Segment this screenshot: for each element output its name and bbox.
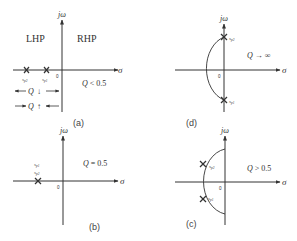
panel-c-label: (c)	[186, 219, 197, 229]
sp2-label: sp2	[209, 164, 215, 170]
jw-label: jω	[220, 126, 229, 135]
up-arrow-icon: ↑	[37, 102, 41, 111]
origin-label: 0	[56, 74, 59, 79]
q-increase-label: Q	[28, 102, 34, 111]
condition-label: Q < 0.5	[82, 79, 106, 88]
sigma-label: σ	[120, 176, 125, 186]
panel-d-label: (d)	[186, 118, 197, 128]
condition-label: Q > 0.5	[247, 164, 271, 173]
condition-label: Q = 0.5	[83, 159, 107, 168]
sigma-label: σ	[282, 177, 287, 187]
panel-b: σ jω 0 sp1 sp2 Q = 0.5 (b)	[13, 126, 125, 232]
root-locus-arc	[206, 37, 224, 100]
sp1-label: sp1	[229, 99, 235, 105]
panel-a: σ jω 0 LHP RHP Q < 0.5 sp2 sp1 Q ↓ Q ↑ (…	[13, 10, 123, 128]
jw-label: jω	[59, 126, 68, 135]
down-arrow-icon: ↓	[37, 87, 41, 96]
sp2-label: sp2	[229, 36, 235, 42]
q-decrease-label: Q	[28, 87, 34, 96]
panel-b-label: (b)	[89, 222, 100, 232]
lhp-label: LHP	[26, 33, 45, 44]
sp1-label: sp1	[34, 162, 40, 168]
panel-c: σ jω 0 sp2 sp1 Q > 0.5 (c)	[175, 126, 287, 229]
origin-label: 0	[219, 186, 222, 191]
origin-label: 0	[57, 185, 60, 190]
sp2-label: sp2	[34, 170, 40, 176]
sigma-label: σ	[282, 65, 287, 75]
rhp-label: RHP	[77, 33, 97, 44]
pole-sp2-marker	[200, 161, 206, 167]
pole-zero-diagram: σ jω 0 LHP RHP Q < 0.5 sp2 sp1 Q ↓ Q ↑ (…	[0, 0, 297, 241]
sp1-label: sp1	[42, 77, 48, 83]
panel-d: σ jω 0 sp2 sp1 Q → ∞ (d)	[175, 14, 287, 128]
pole-sp1-marker	[200, 196, 206, 202]
condition-label: Q → ∞	[247, 51, 271, 60]
jw-label: jω	[219, 14, 228, 23]
panel-a-label: (a)	[73, 118, 84, 128]
origin-label: 0	[218, 74, 221, 79]
sp2-label: sp2	[22, 77, 28, 83]
sigma-label: σ	[118, 65, 123, 75]
jw-label: jω	[57, 10, 66, 19]
